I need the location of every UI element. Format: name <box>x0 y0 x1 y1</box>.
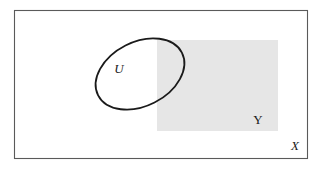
diagram-canvas: U Y X <box>0 0 323 171</box>
label-x: X <box>290 138 300 153</box>
set-diagram-figure: U Y X <box>0 0 323 171</box>
label-u: U <box>114 61 125 76</box>
label-y: Y <box>253 112 263 127</box>
